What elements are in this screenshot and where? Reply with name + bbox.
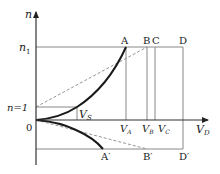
point-a-prime-label: A′ [100, 151, 111, 162]
vd-sub: D [203, 129, 210, 137]
y-axis-label: n [25, 8, 32, 21]
n-equals-1-label: n=1 [7, 102, 28, 113]
va-sub: A [126, 128, 132, 135]
point-d-prime-label: D′ [179, 151, 190, 162]
vb-label: VB [142, 123, 154, 135]
n1-label-main: n [19, 41, 26, 54]
n1-label: n1 [19, 41, 31, 56]
va-label: VA [120, 123, 132, 135]
point-d-label: D [179, 35, 187, 46]
origin-label: 0 [26, 122, 32, 133]
vs-sub: S [87, 114, 92, 122]
point-a-label: A [120, 35, 129, 46]
n-vs-v-diagram: n 0 n1 n=1 A B C D A′ B′ D′ VA VB VC VD … [0, 0, 220, 174]
dashed-line-n1-to-b [36, 47, 147, 107]
vd-label: VD [196, 123, 210, 137]
point-b-label: B [143, 35, 150, 46]
vc-label: VC [158, 123, 170, 135]
vs-label: VS [79, 108, 92, 122]
point-c-label: C [152, 35, 160, 46]
vc-sub: C [165, 128, 170, 135]
point-b-prime-label: B′ [143, 151, 153, 162]
lower-curve-origin-to-a-prime [36, 120, 103, 149]
n1-label-sub: 1 [26, 48, 30, 56]
vb-sub: B [148, 128, 154, 135]
